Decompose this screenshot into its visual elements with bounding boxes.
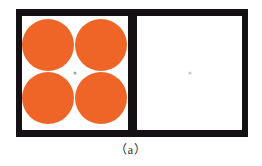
stimulus-circle-bottom-left (22, 72, 74, 124)
stimulus-circle-bottom-right (75, 72, 127, 124)
stimulus-circle-top-right (75, 19, 127, 71)
fixation-dot-left (74, 72, 77, 75)
stimulus-circle-top-left (22, 19, 74, 71)
fixation-dot-right (188, 72, 191, 75)
figure-caption: （a） (0, 142, 262, 158)
four-circle-stimulus-panel (22, 16, 128, 130)
blank-stimulus-panel (137, 16, 242, 130)
figure-frame (16, 9, 248, 137)
